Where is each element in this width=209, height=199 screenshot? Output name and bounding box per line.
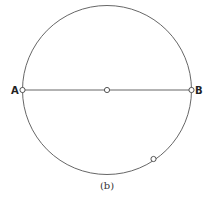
label-a: A — [11, 85, 19, 96]
caption: (b) — [100, 180, 114, 191]
center-marker — [104, 87, 109, 92]
label-b: B — [195, 85, 203, 96]
point-b-marker — [189, 87, 194, 92]
point-p-marker — [151, 156, 156, 161]
point-a-marker — [20, 87, 25, 92]
circle-diagram: A B (b) — [0, 0, 209, 199]
